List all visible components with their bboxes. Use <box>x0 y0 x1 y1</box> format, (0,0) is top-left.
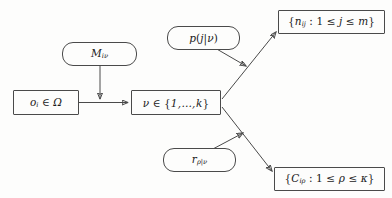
node-state[interactable]: ν ∈ {1,…,k} <box>131 90 221 115</box>
node-mixture-weight[interactable]: Miν <box>62 42 137 66</box>
node-rate-label: rρ|ν <box>192 153 207 166</box>
node-rate[interactable]: rρ|ν <box>163 148 236 172</box>
node-emission-probability-label: p(j|ν) <box>189 32 218 44</box>
node-mixture-weight-label: Miν <box>91 47 108 60</box>
node-counts-set-label: {nij : 1 ≤ j ≤ m} <box>288 15 375 28</box>
node-costs-set[interactable]: {Ciρ : 1 ≤ ρ ≤ κ} <box>274 167 385 191</box>
edge-emission-to-counts-path <box>215 48 246 66</box>
node-state-label: ν ∈ {1,…,k} <box>143 97 209 109</box>
diagram-canvas: oi ∈ Ω Miν ν ∈ {1,…,k} p(j|ν) rρ|ν {nij … <box>0 0 392 198</box>
node-observation-label: oi ∈ Ω <box>30 96 62 109</box>
node-emission-probability[interactable]: p(j|ν) <box>167 26 240 50</box>
node-costs-set-label: {Ciρ : 1 ≤ ρ ≤ κ} <box>285 172 375 185</box>
node-counts-set[interactable]: {nij : 1 ≤ j ≤ m} <box>278 10 385 34</box>
node-observation[interactable]: oi ∈ Ω <box>13 90 79 115</box>
